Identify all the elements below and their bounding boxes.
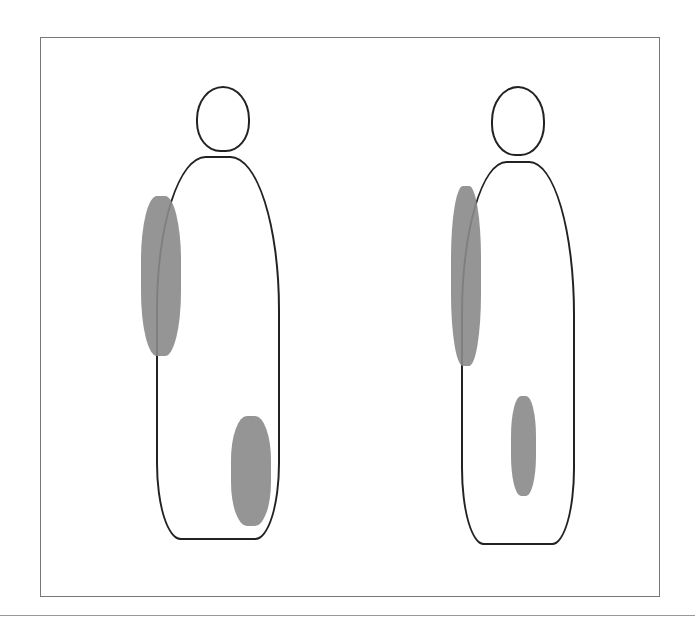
divider xyxy=(0,615,695,616)
shading xyxy=(231,416,271,526)
shading xyxy=(511,396,536,496)
illustration-frame xyxy=(40,37,660,597)
figure-head xyxy=(491,86,545,156)
shading xyxy=(141,196,181,356)
shading xyxy=(451,186,481,366)
figure-head xyxy=(196,86,250,152)
figure-right xyxy=(421,86,611,556)
figure-left xyxy=(111,86,341,556)
